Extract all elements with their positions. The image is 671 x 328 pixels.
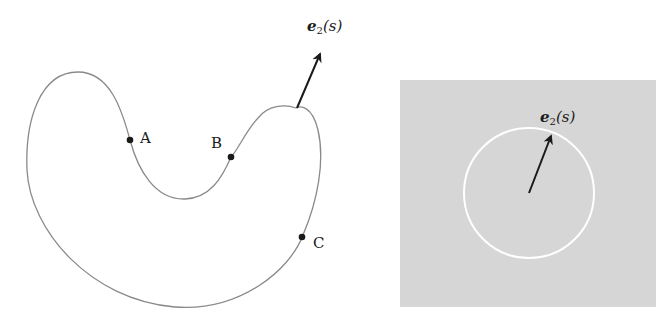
normal-vector-arrow (297, 54, 320, 108)
point-c-label: C (313, 234, 324, 252)
point-c (299, 234, 306, 241)
left-panel: A B C e2(s) (27, 17, 343, 307)
vector-label-left: e2(s) (307, 17, 342, 36)
gray-background (400, 80, 656, 307)
point-b-label: B (211, 134, 222, 152)
point-a-label: A (139, 129, 151, 147)
figure-canvas: A B C e2(s) e2(s) (0, 0, 671, 328)
vector-label-right: e2(s) (540, 108, 575, 127)
right-panel: e2(s) (400, 80, 656, 307)
point-a (127, 137, 134, 144)
point-b (228, 154, 235, 161)
closed-curve (27, 72, 321, 307)
